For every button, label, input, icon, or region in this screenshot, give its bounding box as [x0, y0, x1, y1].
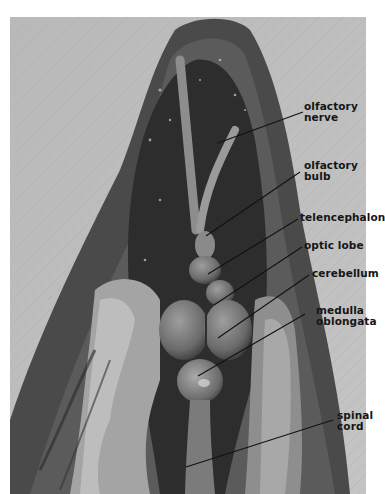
label-optic-lobe: optic lobe	[304, 240, 364, 251]
label-medulla-oblongata: medulla oblongata	[316, 305, 377, 327]
label-telencephalon: telencephalon	[300, 212, 385, 223]
label-spinal-cord: spinal cord	[337, 410, 373, 432]
label-olfactory-bulb: olfactory bulb	[304, 160, 358, 182]
label-cerebellum: cerebellum	[312, 268, 379, 279]
dissection-photo	[10, 17, 366, 494]
label-olfactory-nerve: olfactory nerve	[304, 101, 358, 123]
